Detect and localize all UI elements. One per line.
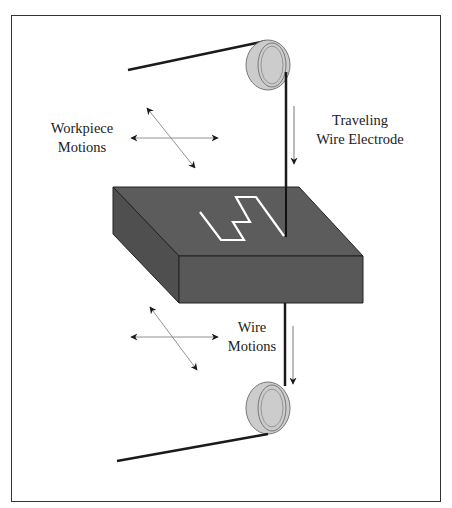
label-workpiece-motions: Workpiece Motions xyxy=(36,119,128,157)
top-spool-icon xyxy=(246,40,290,90)
workpiece-block xyxy=(113,187,363,303)
label-wire-motions: Wire Motions xyxy=(222,318,282,356)
bottom-wire-takeup xyxy=(117,434,268,461)
label-traveling-wire-electrode: Traveling Wire Electrode xyxy=(306,111,414,149)
wire-edm-diagram xyxy=(0,0,452,508)
top-wire-feed xyxy=(128,41,266,70)
wire-motion-arrows xyxy=(131,307,218,370)
bottom-spool-icon xyxy=(246,382,290,434)
workpiece-motion-arrows xyxy=(131,108,218,168)
